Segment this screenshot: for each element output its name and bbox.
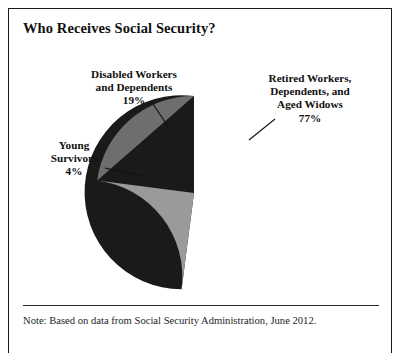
- label-retired-workers-line3: Aged Widows: [277, 98, 343, 110]
- label-disabled-workers-line2: and Dependents: [96, 81, 173, 93]
- label-young-survivors: Young Survivors 4%: [31, 139, 117, 179]
- pie-chart: Disabled Workers and Dependents 19% Youn…: [9, 9, 392, 309]
- label-young-survivors-line2: Survivors: [51, 152, 98, 164]
- label-retired-workers-line2: Dependents, and: [270, 85, 350, 97]
- label-young-survivors-percent: 4%: [31, 165, 117, 178]
- label-disabled-workers-percent: 19%: [75, 94, 193, 107]
- label-retired-workers-percent: 77%: [245, 112, 375, 125]
- label-retired-workers-line1: Retired Workers,: [269, 72, 352, 84]
- label-retired-workers: Retired Workers, Dependents, and Aged Wi…: [245, 72, 375, 125]
- label-disabled-workers-line1: Disabled Workers: [91, 68, 177, 80]
- label-young-survivors-line1: Young: [59, 139, 89, 151]
- label-disabled-workers: Disabled Workers and Dependents 19%: [75, 68, 193, 108]
- note-divider: [23, 305, 379, 306]
- figure-note: Note: Based on data from Social Security…: [23, 315, 316, 326]
- figure-frame: Who Receives Social Security? Disabled W…: [8, 8, 392, 353]
